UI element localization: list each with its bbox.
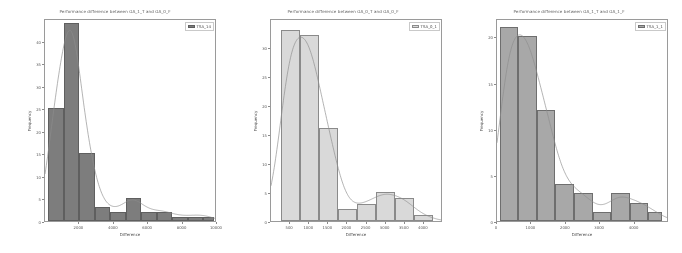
histogram-bar [95,207,110,221]
yaxis-tick-mark [42,132,44,133]
histogram-bar [281,30,300,221]
histogram-bar [555,184,574,221]
histogram-bar [48,108,63,221]
xaxis-tick-label: 4000 [629,225,639,230]
legend-swatch-icon [188,25,195,28]
histogram-bar [172,217,187,222]
histogram-bar [110,212,125,221]
yaxis-tick-label: 25 [256,75,267,80]
yaxis-tick-mark [494,84,496,85]
xaxis-tick-mark [565,222,566,224]
xaxis-tick-mark [385,222,386,224]
yaxis-tick-mark [494,130,496,131]
yaxis-tick-mark [42,154,44,155]
xaxis-tick-mark [404,222,405,224]
yaxis-tick-mark [268,48,270,49]
yaxis-tick-mark [268,106,270,107]
yaxis-tick-label: 5 [30,197,41,202]
xaxis-tick-label: 1000 [526,225,536,230]
xaxis-tick-label: 4000 [418,225,428,230]
xaxis-tick-mark [530,222,531,224]
xaxis-label-1: Difference [44,232,216,238]
legend-swatch-icon [638,25,645,28]
xaxis-label-3: Difference [496,232,668,238]
yaxis-tick-label: 40 [30,39,41,44]
histogram-bar [357,204,376,221]
yaxis-tick-label: 0 [30,220,41,225]
yaxis-tick-mark [494,222,496,223]
xaxis-tick-mark [327,222,328,224]
histogram-bar [518,36,537,221]
xaxis-tick-mark [423,222,424,224]
histogram-bar [395,198,414,221]
yaxis-tick-mark [268,193,270,194]
legend-label-3: TSA_1_1 [647,24,663,29]
xaxis-tick-mark [366,222,367,224]
chart-panel-3: Performance difference between GA_1_T an… [456,0,682,253]
yaxis-tick-mark [42,222,44,223]
yaxis-tick-mark [268,77,270,78]
yaxis-label-2: Frequency [253,101,259,141]
yaxis-tick-label: 15 [30,152,41,157]
xaxis-tick-mark [496,222,497,224]
xaxis-tick-mark [216,222,217,224]
yaxis-tick-label: 10 [30,174,41,179]
xaxis-tick-mark [113,222,114,224]
histogram-bar [319,128,338,221]
histogram-bar [611,193,630,221]
xaxis-tick-label: 1500 [322,225,332,230]
bars-group-2 [271,20,441,221]
xaxis-tick-label: 3000 [380,225,390,230]
histogram-bar [574,193,593,221]
yaxis-tick-mark [42,109,44,110]
xaxis-tick-label: 2500 [361,225,371,230]
yaxis-tick-mark [494,37,496,38]
xaxis-tick-label: 4000 [108,225,118,230]
histogram-bar [64,23,79,221]
yaxis-label-3: Frequency [479,101,485,141]
histogram-bar [300,35,319,221]
xaxis-tick-label: 1000 [303,225,313,230]
legend-2: TSA_0_1 [409,22,440,31]
chart-title-1: Performance difference between GA_1_T an… [0,9,230,15]
xaxis-tick-mark [308,222,309,224]
legend-1: TSA_14 [185,22,214,31]
histogram-bar [79,153,94,221]
yaxis-tick-mark [42,177,44,178]
histogram-bar [338,209,357,221]
xaxis-tick-label: 10000 [210,225,222,230]
plot-area-2 [270,19,442,222]
histogram-bar [376,192,395,221]
xaxis-tick-label: 2000 [74,225,84,230]
histogram-figure: Performance difference between GA_1_T an… [0,0,682,253]
bars-group-3 [497,20,667,221]
yaxis-tick-mark [268,222,270,223]
xaxis-tick-label: 8000 [177,225,187,230]
yaxis-tick-label: 0 [256,220,267,225]
yaxis-tick-mark [42,42,44,43]
xaxis-label-2: Difference [270,232,442,238]
histogram-bar [648,212,662,221]
histogram-bar [630,203,649,221]
xaxis-tick-mark [346,222,347,224]
xaxis-tick-label: 500 [285,225,292,230]
yaxis-tick-mark [42,199,44,200]
yaxis-tick-label: 5 [482,173,493,178]
histogram-bar [593,212,612,221]
chart-title-3: Performance difference between GA_1_T an… [456,9,682,15]
plot-area-1 [44,19,216,222]
plot-area-3 [496,19,668,222]
yaxis-tick-mark [42,64,44,65]
yaxis-tick-label: 20 [482,35,493,40]
xaxis-tick-label: 2000 [560,225,570,230]
yaxis-tick-label: 0 [482,220,493,225]
histogram-bar [500,27,519,221]
histogram-bar [414,215,433,221]
xaxis-tick-mark [182,222,183,224]
yaxis-tick-label: 30 [30,84,41,89]
chart-panel-1: Performance difference between GA_1_T an… [0,0,230,253]
yaxis-tick-label: 5 [256,191,267,196]
legend-label-2: TSA_0_1 [421,24,437,29]
yaxis-tick-label: 30 [256,46,267,51]
yaxis-tick-mark [42,87,44,88]
